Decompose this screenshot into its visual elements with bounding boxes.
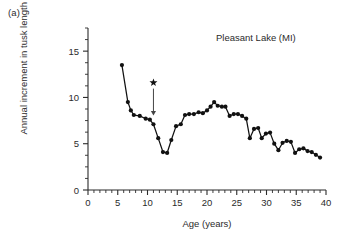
y-tick-label: 15 (68, 46, 79, 57)
annotations (149, 78, 157, 115)
figure-panel: (a) Pleasant Lake (MI) Annual increment … (0, 0, 341, 244)
data-point (236, 112, 240, 116)
data-point (228, 114, 232, 118)
data-point (310, 150, 314, 154)
y-tick-label: 10 (68, 92, 79, 103)
x-tick-label: 30 (261, 197, 272, 208)
data-point (156, 136, 160, 140)
data-point (297, 147, 301, 151)
data-point (165, 151, 169, 155)
data-point (192, 112, 196, 116)
data-point (293, 151, 297, 155)
data-point (169, 138, 173, 142)
x-tick-label: 10 (142, 197, 153, 208)
data-point (264, 131, 268, 135)
data-point (144, 117, 148, 121)
data-point (280, 141, 284, 145)
x-tick-label: 35 (291, 197, 302, 208)
x-tick-label: 25 (231, 197, 242, 208)
data-point (272, 142, 276, 146)
data-point (183, 113, 187, 117)
data-point (232, 112, 236, 116)
x-tick-label: 0 (85, 197, 90, 208)
data-point (252, 127, 256, 131)
data-point (138, 114, 142, 118)
data-point (197, 110, 201, 114)
data-point (289, 140, 293, 144)
data-point (148, 118, 152, 122)
x-tick-label: 40 (321, 197, 332, 208)
data-point (220, 105, 224, 109)
data-point (305, 149, 309, 153)
x-tick-label: 15 (172, 197, 183, 208)
data-point (223, 105, 227, 109)
x-tick-label: 20 (202, 197, 213, 208)
data-point (268, 131, 272, 135)
data-point (301, 146, 305, 150)
data-point (318, 156, 322, 160)
star-icon (149, 78, 157, 86)
data-point (285, 139, 289, 143)
data-point (240, 114, 244, 118)
y-tick-label: 5 (74, 138, 79, 149)
tick-labels: 0510152025303540051015 (68, 46, 331, 208)
data-point (314, 153, 318, 157)
data-point (208, 105, 212, 109)
data-point (179, 122, 183, 126)
data-point (120, 63, 124, 67)
data-point (187, 112, 191, 116)
data-point (212, 100, 216, 104)
data-point (132, 113, 136, 117)
annotation-arrowhead (151, 111, 156, 116)
data-point (244, 117, 248, 121)
data-point (205, 108, 209, 112)
data-point (161, 150, 165, 154)
data-point (126, 100, 130, 104)
data-point (129, 108, 133, 112)
data-point (151, 122, 155, 126)
data-series (120, 63, 322, 160)
data-point (248, 136, 252, 140)
data-point (174, 124, 178, 128)
x-tick-label: 5 (115, 197, 120, 208)
data-point (201, 111, 205, 115)
data-point (276, 148, 280, 152)
data-point (260, 136, 264, 140)
y-tick-label: 0 (74, 185, 79, 196)
line-chart-canvas: 0510152025303540051015 (0, 0, 341, 244)
data-point (216, 104, 220, 108)
data-point (256, 126, 260, 130)
